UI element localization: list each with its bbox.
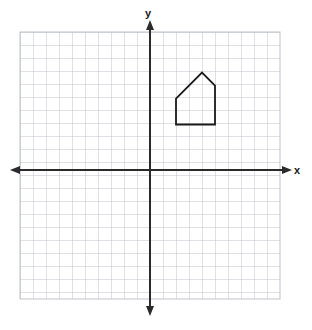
x-axis-arrow-left-icon: [10, 166, 20, 174]
coordinate-plane-svg: y x: [0, 0, 312, 330]
coordinate-plane-figure: y x: [0, 0, 312, 330]
y-axis-label: y: [145, 7, 152, 19]
x-axis-label: x: [294, 164, 301, 176]
y-axis-arrow-up-icon: [146, 20, 154, 30]
x-axis-arrow-right-icon: [282, 166, 292, 174]
y-axis-arrow-down-icon: [146, 306, 154, 316]
